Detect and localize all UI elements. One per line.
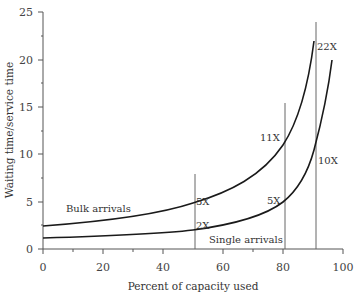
annotation-5x-50: 5X (196, 196, 210, 207)
x-tick-label: 100 (333, 261, 354, 274)
annotation-10x-90: 10X (318, 155, 339, 166)
annotation-5x-80: 5X (267, 195, 281, 206)
bulk-arrivals-label: Bulk arrivals (66, 203, 131, 214)
y-tick-label: 10 (19, 148, 33, 161)
x-tick-label: 80 (276, 261, 290, 274)
y-tick-label: 5 (26, 196, 33, 209)
x-tick-label: 40 (156, 261, 170, 274)
annotation-11x-80: 11X (260, 132, 281, 143)
chart: 25 20 15 10 5 0 0 20 40 60 80 100 Percen… (0, 0, 359, 297)
x-tick-label: 20 (96, 261, 110, 274)
single-arrivals-label: Single arrivals (209, 234, 283, 245)
y-tick-label: 0 (26, 243, 33, 256)
y-tick-label: 20 (19, 54, 33, 67)
y-tick-label: 25 (19, 6, 33, 19)
y-tick-label: 15 (19, 101, 33, 114)
annotation-22x-90: 22X (317, 41, 338, 52)
x-tick-label: 0 (40, 261, 47, 274)
x-axis-title: Percent of capacity used (128, 280, 259, 292)
annotation-2x-50: 2X (196, 220, 210, 231)
x-tick-label: 60 (216, 261, 230, 274)
y-axis-title: Waiting time/service time (3, 62, 15, 198)
